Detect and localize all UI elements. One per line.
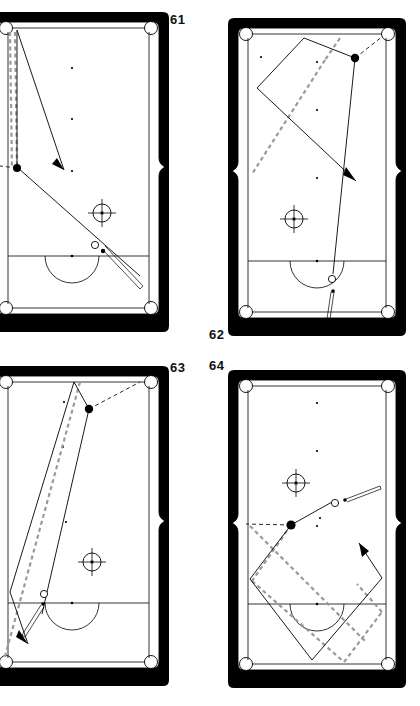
diagram-label-61: 61 [170, 12, 185, 27]
cue-ball-61 [91, 241, 98, 248]
diagram-label-63: 63 [170, 360, 185, 375]
diagram-label-62: 62 [209, 327, 224, 342]
cue-ball-64 [331, 499, 338, 506]
diagram-page: 61 [0, 0, 420, 706]
object-ball-61 [13, 164, 21, 172]
object-ball-63 [85, 405, 93, 413]
contact-dot-63 [41, 602, 45, 606]
diagram-64 [228, 366, 408, 696]
cue-ball-63 [40, 590, 47, 597]
table-frame-64 [228, 370, 406, 688]
object-ball-62 [351, 54, 359, 62]
diagram-62 [228, 14, 408, 344]
table-frame-61 [0, 12, 169, 332]
table-frame-63 [0, 366, 169, 686]
diagram-label-64: 64 [209, 358, 224, 373]
contact-dot-61 [101, 249, 105, 253]
object-ball-64 [286, 520, 295, 529]
diagram-63 [0, 362, 173, 692]
cue-ball-62 [328, 275, 335, 282]
diagram-61 [0, 8, 173, 338]
